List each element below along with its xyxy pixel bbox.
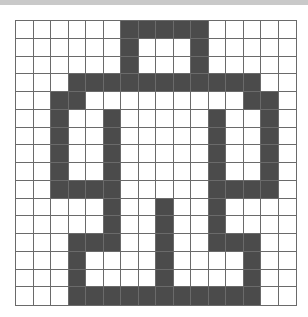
grid-cell-r11-c12[interactable] [226, 216, 244, 234]
grid-cell-r13-c14[interactable] [261, 252, 279, 270]
grid-cell-r5-c6[interactable] [121, 110, 139, 128]
grid-cell-r12-c0[interactable] [16, 234, 34, 252]
grid-cell-r15-c2[interactable] [51, 287, 69, 305]
grid-cell-r3-c14[interactable] [261, 74, 279, 92]
grid-cell-r13-c3[interactable] [69, 252, 87, 270]
grid-cell-r13-c4[interactable] [86, 252, 104, 270]
grid-cell-r0-c12[interactable] [226, 21, 244, 39]
grid-cell-r0-c10[interactable] [191, 21, 209, 39]
grid-cell-r14-c10[interactable] [191, 270, 209, 288]
grid-cell-r10-c7[interactable] [139, 199, 157, 217]
grid-cell-r6-c0[interactable] [16, 128, 34, 146]
grid-cell-r0-c4[interactable] [86, 21, 104, 39]
grid-cell-r15-c8[interactable] [156, 287, 174, 305]
grid-cell-r8-c4[interactable] [86, 163, 104, 181]
grid-cell-r6-c14[interactable] [261, 128, 279, 146]
grid-cell-r2-c13[interactable] [244, 57, 262, 75]
grid-cell-r13-c10[interactable] [191, 252, 209, 270]
grid-cell-r0-c8[interactable] [156, 21, 174, 39]
grid-cell-r6-c2[interactable] [51, 128, 69, 146]
grid-cell-r4-c1[interactable] [34, 92, 52, 110]
grid-cell-r7-c13[interactable] [244, 145, 262, 163]
grid-cell-r6-c7[interactable] [139, 128, 157, 146]
grid-cell-r6-c1[interactable] [34, 128, 52, 146]
grid-cell-r9-c11[interactable] [209, 181, 227, 199]
grid-cell-r12-c5[interactable] [104, 234, 122, 252]
grid-cell-r0-c15[interactable] [279, 21, 297, 39]
grid-cell-r6-c15[interactable] [279, 128, 297, 146]
grid-cell-r2-c14[interactable] [261, 57, 279, 75]
grid-cell-r3-c4[interactable] [86, 74, 104, 92]
grid-cell-r2-c12[interactable] [226, 57, 244, 75]
grid-cell-r11-c1[interactable] [34, 216, 52, 234]
grid-cell-r8-c12[interactable] [226, 163, 244, 181]
grid-cell-r5-c15[interactable] [279, 110, 297, 128]
grid-cell-r9-c2[interactable] [51, 181, 69, 199]
grid-cell-r4-c12[interactable] [226, 92, 244, 110]
grid-cell-r13-c9[interactable] [174, 252, 192, 270]
grid-cell-r11-c13[interactable] [244, 216, 262, 234]
grid-cell-r4-c2[interactable] [51, 92, 69, 110]
grid-cell-r1-c4[interactable] [86, 39, 104, 57]
grid-cell-r12-c9[interactable] [174, 234, 192, 252]
grid-cell-r13-c7[interactable] [139, 252, 157, 270]
grid-cell-r9-c7[interactable] [139, 181, 157, 199]
grid-cell-r8-c11[interactable] [209, 163, 227, 181]
grid-cell-r6-c8[interactable] [156, 128, 174, 146]
grid-cell-r6-c12[interactable] [226, 128, 244, 146]
grid-cell-r11-c7[interactable] [139, 216, 157, 234]
grid-cell-r1-c6[interactable] [121, 39, 139, 57]
grid-cell-r5-c14[interactable] [261, 110, 279, 128]
grid-cell-r10-c3[interactable] [69, 199, 87, 217]
grid-cell-r0-c9[interactable] [174, 21, 192, 39]
grid-cell-r10-c13[interactable] [244, 199, 262, 217]
grid-cell-r2-c2[interactable] [51, 57, 69, 75]
grid-cell-r12-c15[interactable] [279, 234, 297, 252]
grid-cell-r9-c4[interactable] [86, 181, 104, 199]
grid-cell-r15-c5[interactable] [104, 287, 122, 305]
grid-cell-r7-c1[interactable] [34, 145, 52, 163]
grid-cell-r7-c15[interactable] [279, 145, 297, 163]
grid-cell-r9-c9[interactable] [174, 181, 192, 199]
grid-cell-r4-c13[interactable] [244, 92, 262, 110]
grid-cell-r14-c5[interactable] [104, 270, 122, 288]
grid-cell-r10-c15[interactable] [279, 199, 297, 217]
grid-cell-r1-c7[interactable] [139, 39, 157, 57]
grid-cell-r1-c2[interactable] [51, 39, 69, 57]
grid-cell-r12-c2[interactable] [51, 234, 69, 252]
grid-cell-r14-c14[interactable] [261, 270, 279, 288]
grid-cell-r4-c9[interactable] [174, 92, 192, 110]
grid-cell-r10-c5[interactable] [104, 199, 122, 217]
grid-cell-r0-c0[interactable] [16, 21, 34, 39]
grid-cell-r13-c8[interactable] [156, 252, 174, 270]
grid-cell-r13-c12[interactable] [226, 252, 244, 270]
grid-cell-r13-c6[interactable] [121, 252, 139, 270]
grid-cell-r8-c10[interactable] [191, 163, 209, 181]
grid-cell-r10-c6[interactable] [121, 199, 139, 217]
grid-cell-r8-c15[interactable] [279, 163, 297, 181]
grid-cell-r3-c8[interactable] [156, 74, 174, 92]
grid-cell-r1-c10[interactable] [191, 39, 209, 57]
grid-cell-r15-c10[interactable] [191, 287, 209, 305]
grid-cell-r0-c1[interactable] [34, 21, 52, 39]
grid-cell-r5-c4[interactable] [86, 110, 104, 128]
grid-cell-r3-c13[interactable] [244, 74, 262, 92]
grid-cell-r7-c9[interactable] [174, 145, 192, 163]
grid-cell-r3-c1[interactable] [34, 74, 52, 92]
grid-cell-r6-c3[interactable] [69, 128, 87, 146]
grid-cell-r4-c5[interactable] [104, 92, 122, 110]
grid-cell-r11-c14[interactable] [261, 216, 279, 234]
grid-cell-r2-c4[interactable] [86, 57, 104, 75]
grid-cell-r7-c4[interactable] [86, 145, 104, 163]
grid-cell-r2-c3[interactable] [69, 57, 87, 75]
grid-cell-r7-c12[interactable] [226, 145, 244, 163]
grid-cell-r9-c0[interactable] [16, 181, 34, 199]
grid-cell-r4-c3[interactable] [69, 92, 87, 110]
grid-cell-r15-c12[interactable] [226, 287, 244, 305]
grid-cell-r4-c0[interactable] [16, 92, 34, 110]
grid-cell-r4-c8[interactable] [156, 92, 174, 110]
grid-cell-r8-c14[interactable] [261, 163, 279, 181]
grid-cell-r4-c7[interactable] [139, 92, 157, 110]
grid-cell-r2-c15[interactable] [279, 57, 297, 75]
grid-cell-r1-c14[interactable] [261, 39, 279, 57]
